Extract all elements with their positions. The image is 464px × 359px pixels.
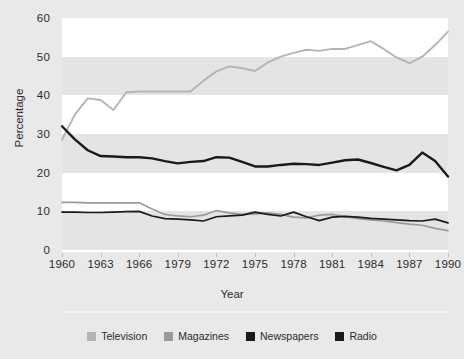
- y-tick-label: 50: [37, 51, 50, 63]
- series-line-television: [62, 32, 448, 140]
- x-tick-label: 1960: [49, 258, 75, 270]
- x-tick: [294, 253, 295, 257]
- legend-swatch-icon: [164, 332, 173, 341]
- x-tick: [62, 253, 63, 257]
- x-axis-baseline: [62, 250, 448, 252]
- x-tick: [178, 253, 179, 257]
- x-tick: [255, 253, 256, 257]
- legend-item-newspapers[interactable]: Newspapers: [246, 330, 318, 342]
- legend-label: Television: [101, 330, 147, 342]
- legend-item-magazines[interactable]: Magazines: [164, 330, 229, 342]
- plot-area: [62, 18, 448, 250]
- x-tick: [332, 253, 333, 257]
- y-axis: 0102030405060: [0, 18, 56, 250]
- y-axis-title: Percentage: [13, 70, 25, 166]
- legend-item-radio[interactable]: Radio: [335, 330, 376, 342]
- x-tick-label: 1979: [165, 258, 191, 270]
- y-tick-label: 0: [43, 244, 50, 256]
- y-tick-label: 60: [37, 12, 50, 24]
- y-tick-label: 20: [37, 167, 50, 179]
- legend-label: Radio: [349, 330, 376, 342]
- x-tick-label: 1981: [319, 258, 345, 270]
- x-tick-label: 1966: [126, 258, 152, 270]
- x-tick: [139, 253, 140, 257]
- series-lines: [62, 18, 448, 250]
- legend-label: Magazines: [178, 330, 229, 342]
- y-tick-label: 30: [37, 128, 50, 140]
- x-tick-label: 1972: [203, 258, 229, 270]
- series-line-magazines: [62, 202, 448, 230]
- x-axis-title: Year: [0, 288, 464, 300]
- legend-swatch-icon: [335, 332, 344, 341]
- x-tick: [371, 253, 372, 257]
- legend-swatch-icon: [87, 332, 96, 341]
- chart-card: 0102030405060 Percentage 196019631966197…: [0, 0, 464, 359]
- chart-legend: TelevisionMagazinesNewspapersRadio: [0, 330, 464, 342]
- x-tick: [101, 253, 102, 257]
- x-tick: [448, 253, 449, 257]
- x-tick-label: 1984: [358, 258, 384, 270]
- legend-divider: [62, 311, 448, 313]
- x-tick-label: 1963: [87, 258, 113, 270]
- series-line-newspapers: [62, 126, 448, 176]
- x-tick: [409, 253, 410, 257]
- y-tick-label: 10: [37, 205, 50, 217]
- legend-swatch-icon: [246, 332, 255, 341]
- x-tick: [216, 253, 217, 257]
- x-axis: 1960196319661979197219751978198119841987…: [62, 253, 448, 275]
- legend-item-television[interactable]: Television: [87, 330, 147, 342]
- x-tick-label: 1975: [242, 258, 268, 270]
- x-tick-label: 1987: [396, 258, 422, 270]
- y-tick-label: 40: [37, 89, 50, 101]
- x-tick-label: 1990: [435, 258, 461, 270]
- x-tick-label: 1978: [280, 258, 306, 270]
- legend-label: Newspapers: [260, 330, 318, 342]
